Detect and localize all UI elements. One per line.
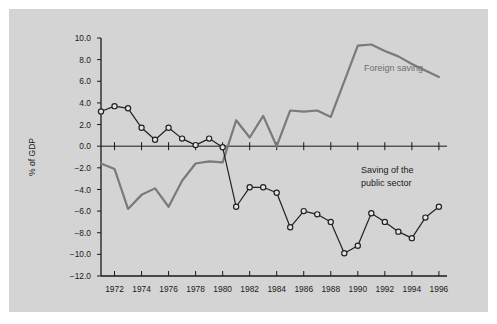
data-point-marker [274,190,279,195]
x-tick-label: 1988 [321,284,340,294]
data-point-marker [166,125,171,130]
axis-lines [101,38,447,276]
x-tick-label: 1994 [403,284,422,294]
line-chart: % of GDP 10.08.06.04.02.00.0−2.0−4.0−6.0… [9,9,488,312]
data-point-marker [207,136,212,141]
x-tick-label: 1978 [186,284,205,294]
y-tick-label: −8.0 [74,228,91,238]
y-tick-label: −4.0 [74,185,91,195]
y-tick-label: 2.0 [79,120,91,130]
data-point-marker [423,215,428,220]
data-point-marker [369,211,374,216]
series-annotations: Foreign savingSaving of thepublic sector [361,63,423,188]
data-point-marker [382,219,387,224]
data-point-marker [179,136,184,141]
data-point-marker [152,137,157,142]
data-point-marker [315,212,320,217]
data-point-marker [288,225,293,230]
chart-panel: % of GDP 10.08.06.04.02.00.0−2.0−4.0−6.0… [9,9,488,312]
y-tick-label: 0.0 [79,141,91,151]
data-point-marker [328,219,333,224]
annotation-foreign-saving: Foreign saving [364,63,423,73]
x-tick-label: 1984 [267,284,286,294]
y-tick-label: 6.0 [79,76,91,86]
data-point-marker [125,106,130,111]
y-axis-tick-labels: 10.08.06.04.02.00.0−2.0−4.0−6.0−8.0−10.0… [70,33,101,281]
y-tick-label: −2.0 [74,163,91,173]
y-tick-label: −10.0 [70,249,92,259]
x-tick-label: 1996 [430,284,449,294]
data-point-marker [342,251,347,256]
data-series-group [98,44,441,255]
x-tick-label: 1986 [294,284,313,294]
y-axis-title-group: % of GDP [27,138,37,176]
y-tick-label: 4.0 [79,98,91,108]
x-tick-label: 1972 [105,284,124,294]
x-tick-label: 1992 [376,284,395,294]
y-tick-label: −6.0 [74,206,91,216]
x-tick-label: 1974 [132,284,151,294]
figure-root: % of GDP 10.08.06.04.02.00.0−2.0−4.0−6.0… [0,0,497,324]
data-point-marker [193,143,198,148]
data-point-marker [409,236,414,241]
data-point-marker [261,185,266,190]
data-point-marker [247,185,252,190]
data-point-marker [98,109,103,114]
x-tick-label: 1982 [240,284,259,294]
x-tick-label: 1976 [159,284,178,294]
y-tick-label: 10.0 [75,33,92,43]
data-point-marker [112,104,117,109]
y-tick-label: 8.0 [79,55,91,65]
data-point-marker [234,204,239,209]
data-point-marker [139,125,144,130]
y-tick-label: −12.0 [70,271,92,281]
annotation-public-sector-line1: Saving of the [361,165,414,175]
data-point-marker [301,208,306,213]
annotation-public-sector-line2: public sector [361,178,412,188]
y-axis-title: % of GDP [27,138,37,176]
x-tick-label: 1990 [348,284,367,294]
data-point-marker [436,204,441,209]
data-point-marker [355,243,360,248]
data-point-marker [220,145,225,150]
x-tick-label: 1980 [213,284,232,294]
data-point-marker [396,229,401,234]
